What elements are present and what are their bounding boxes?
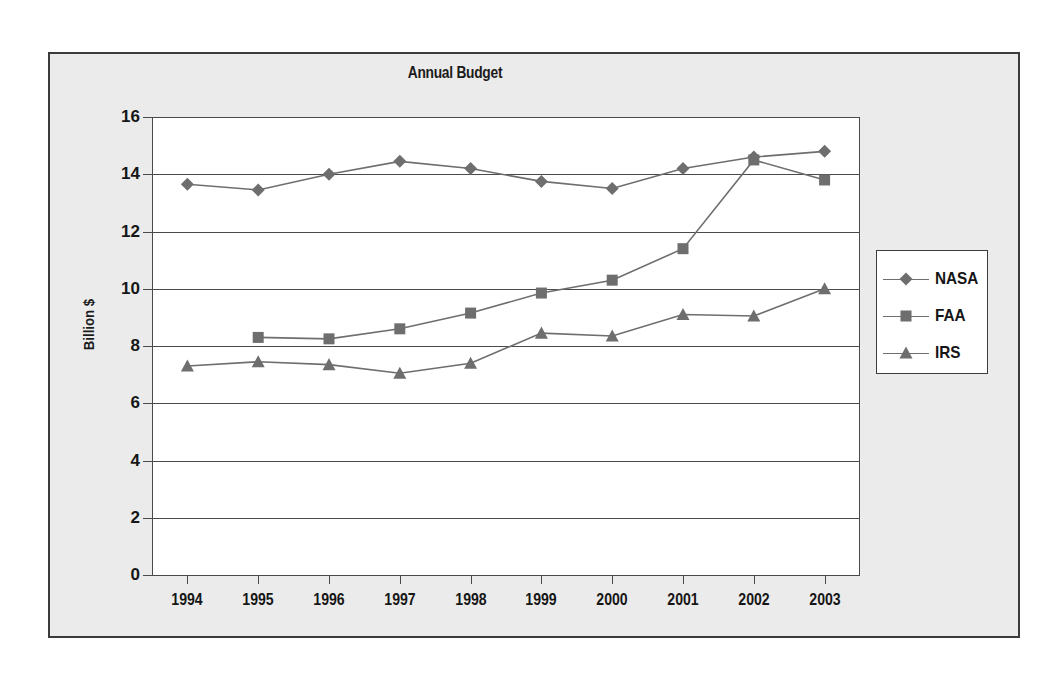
legend-item-faa[interactable]: FAA xyxy=(877,296,987,336)
triangle-marker xyxy=(464,357,477,369)
diamond-marker xyxy=(393,155,406,168)
triangle-icon xyxy=(896,343,916,363)
y-tick-mark xyxy=(143,117,152,118)
x-tick-label: 2002 xyxy=(738,591,769,609)
y-tick-label: 2 xyxy=(131,508,140,528)
square-marker xyxy=(748,154,759,165)
x-tick-mark xyxy=(541,575,542,584)
x-tick-mark xyxy=(400,575,401,584)
diamond-marker xyxy=(252,183,265,196)
x-tick-label: 2000 xyxy=(597,591,628,609)
chart-figure: Annual Budget Billion $ 0246810121416 19… xyxy=(48,52,1020,638)
y-tick-mark xyxy=(143,461,152,462)
y-tick-mark xyxy=(143,346,152,347)
x-tick-mark xyxy=(471,575,472,584)
diamond-marker xyxy=(900,273,913,286)
chart-legend: NASAFAAIRS xyxy=(876,250,988,374)
legend-item-irs[interactable]: IRS xyxy=(877,333,987,373)
square-marker xyxy=(678,243,689,254)
x-tick-mark xyxy=(612,575,613,584)
x-tick-label: 1998 xyxy=(455,591,486,609)
series-line-irs xyxy=(187,289,824,373)
series-line-nasa xyxy=(187,151,824,190)
y-tick-mark xyxy=(143,232,152,233)
x-tick-label: 1995 xyxy=(243,591,274,609)
x-tick-mark xyxy=(683,575,684,584)
chart-title: Annual Budget xyxy=(107,64,804,82)
square-marker xyxy=(394,323,405,334)
y-tick-label: 8 xyxy=(131,336,140,356)
diamond-marker xyxy=(677,162,690,175)
x-tick-label: 1996 xyxy=(313,591,344,609)
square-icon xyxy=(896,306,916,326)
y-tick-label: 4 xyxy=(131,451,140,471)
diamond-marker xyxy=(818,145,831,158)
square-marker xyxy=(901,311,912,322)
x-tick-label: 1994 xyxy=(172,591,203,609)
x-tick-mark xyxy=(187,575,188,584)
y-tick-mark xyxy=(143,174,152,175)
x-tick-mark xyxy=(825,575,826,584)
y-tick-label: 14 xyxy=(121,164,140,184)
diamond-marker xyxy=(606,182,619,195)
legend-label: IRS xyxy=(935,343,961,363)
diamond-icon xyxy=(896,269,916,289)
y-tick-label: 12 xyxy=(121,222,140,242)
diamond-marker xyxy=(535,175,548,188)
triangle-marker xyxy=(818,282,831,294)
plot-area: 0246810121416 19941995199619971998199920… xyxy=(152,117,860,575)
x-tick-mark xyxy=(329,575,330,584)
y-axis-title: Billion $ xyxy=(80,272,97,378)
x-tick-mark xyxy=(258,575,259,584)
y-tick-label: 16 xyxy=(121,107,140,127)
triangle-marker xyxy=(900,347,913,359)
legend-sample-faa xyxy=(881,306,931,326)
square-marker xyxy=(819,174,830,185)
legend-sample-irs xyxy=(881,343,931,363)
y-tick-label: 10 xyxy=(121,279,140,299)
square-marker xyxy=(536,288,547,299)
x-tick-label: 1999 xyxy=(526,591,557,609)
y-tick-label: 0 xyxy=(131,565,140,585)
x-tick-label: 1997 xyxy=(384,591,415,609)
legend-label: FAA xyxy=(935,306,966,326)
legend-item-nasa[interactable]: NASA xyxy=(877,259,987,299)
diamond-marker xyxy=(323,168,336,181)
legend-label: NASA xyxy=(935,269,978,289)
square-marker xyxy=(607,275,618,286)
y-tick-mark xyxy=(143,403,152,404)
square-marker xyxy=(465,308,476,319)
x-tick-mark xyxy=(754,575,755,584)
diamond-marker xyxy=(181,178,194,191)
square-marker xyxy=(253,332,264,343)
y-tick-mark xyxy=(143,289,152,290)
diamond-marker xyxy=(464,162,477,175)
x-tick-label: 2001 xyxy=(667,591,698,609)
y-tick-mark xyxy=(143,518,152,519)
y-tick-label: 6 xyxy=(131,393,140,413)
legend-sample-nasa xyxy=(881,269,931,289)
square-marker xyxy=(324,333,335,344)
x-tick-label: 2003 xyxy=(809,591,840,609)
y-tick-mark xyxy=(143,575,152,576)
series-group xyxy=(152,117,860,575)
